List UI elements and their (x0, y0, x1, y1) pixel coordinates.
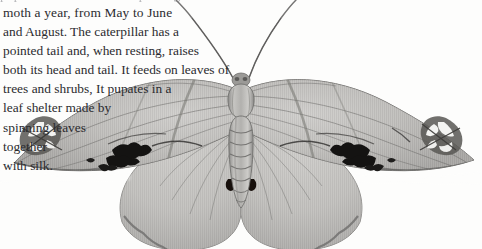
text-line-4: both its head and tail. It feeds on leav… (3, 60, 273, 79)
text-line-2: and August. The caterpillar has a (3, 22, 273, 41)
text-line-5: trees and shrubs, It pupates in a (3, 79, 273, 98)
text-line-3: pointed tail and, when resting, raises (3, 41, 273, 60)
text-line-9: with silk. (3, 156, 273, 175)
body-text: moth a year, from May to June and August… (3, 3, 273, 175)
text-line-7: spinning leaves (3, 118, 273, 137)
text-line-1: moth a year, from May to June (3, 3, 273, 22)
book-page: pupates in a leaf shelter spun together (0, 0, 482, 249)
text-line-6: leaf shelter made by (3, 98, 273, 117)
text-line-8: together (3, 137, 273, 156)
